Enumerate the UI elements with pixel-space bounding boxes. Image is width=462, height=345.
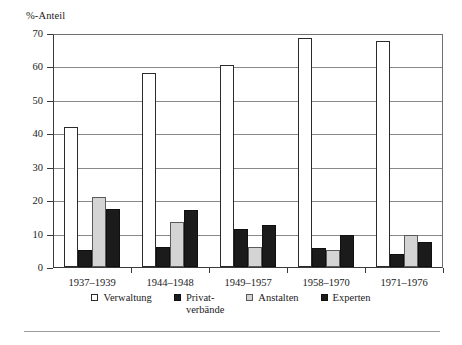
legend-item: Verwaltung	[91, 292, 151, 304]
bar	[92, 197, 106, 267]
x-axis-tick-label: 1971–1976	[380, 277, 427, 288]
bar	[418, 242, 432, 267]
y-axis-tick-label: 30	[0, 162, 43, 173]
x-axis-tick-label: 1958–1970	[302, 277, 349, 288]
bar	[170, 222, 184, 267]
legend-item: Experten	[321, 292, 371, 304]
x-axis-tick	[131, 268, 132, 273]
bar	[248, 247, 262, 267]
bar	[78, 250, 92, 267]
bar	[64, 127, 78, 267]
bar	[340, 235, 354, 267]
bar	[106, 209, 120, 268]
legend-label: Experten	[333, 292, 371, 304]
x-axis-tick	[365, 268, 366, 273]
x-axis-tick-label: 1937–1939	[68, 277, 115, 288]
legend-swatch-icon	[321, 294, 328, 301]
legend-item: Anstalten	[246, 292, 298, 304]
y-axis-tick-label: 60	[0, 62, 43, 73]
bar	[156, 247, 170, 267]
bar	[142, 73, 156, 267]
bar	[234, 229, 248, 267]
y-axis-tick-label: 40	[0, 129, 43, 140]
x-axis-tick-label: 1949–1957	[224, 277, 271, 288]
x-axis-tick-label: 1944–1948	[146, 277, 193, 288]
plot-area	[53, 34, 443, 268]
chart-figure: %-Anteil 010203040506070 1937–19391944–1…	[0, 0, 462, 345]
x-axis-tick	[209, 268, 210, 273]
footer-rule	[24, 331, 440, 332]
legend-label: Anstalten	[258, 292, 298, 304]
y-axis-tick-label: 70	[0, 29, 43, 40]
y-axis-tick-label: 10	[0, 229, 43, 240]
bar	[390, 254, 404, 267]
bar	[262, 225, 276, 267]
legend-label: Verwaltung	[103, 292, 151, 304]
legend-swatch-icon	[174, 294, 181, 301]
legend-swatch-icon	[91, 294, 98, 301]
legend-item: Privat- verbände	[174, 292, 224, 315]
legend-label: Privat- verbände	[186, 292, 224, 315]
bar	[404, 235, 418, 267]
bar	[220, 65, 234, 267]
y-axis-tick-label: 0	[0, 263, 43, 274]
y-axis-tick	[47, 268, 53, 269]
y-axis-tick-label: 50	[0, 96, 43, 107]
legend-swatch-icon	[246, 294, 253, 301]
y-axis-tick-label: 20	[0, 196, 43, 207]
bar	[376, 41, 390, 267]
bar	[184, 210, 198, 267]
bar	[326, 250, 340, 267]
x-axis-tick	[443, 268, 444, 273]
chart-legend: VerwaltungPrivat- verbändeAnstaltenExper…	[0, 292, 462, 315]
bar	[312, 248, 326, 267]
y-axis-title: %-Anteil	[26, 10, 65, 21]
x-axis-tick	[287, 268, 288, 273]
bar	[298, 38, 312, 267]
